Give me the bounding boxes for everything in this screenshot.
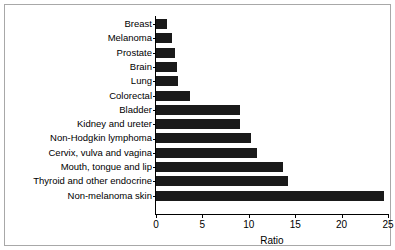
category-label: Brain	[130, 60, 152, 74]
x-axis-tick	[156, 214, 157, 218]
category-label: Kidney and ureter	[77, 117, 152, 131]
category-label: Non-melanoma skin	[68, 189, 152, 203]
bar	[156, 48, 175, 58]
x-axis-tick-label: 5	[200, 219, 206, 231]
x-axis-tick-label: 0	[153, 219, 159, 231]
figure-frame: BreastMelanomaProstateBrainLungColorecta…	[4, 4, 391, 246]
x-axis-tick-label: 25	[382, 219, 393, 231]
x-axis-title: Ratio	[156, 235, 388, 246]
bar-row: Thyroid and other endocrine	[156, 174, 388, 188]
bar-row: Kidney and ureter	[156, 117, 388, 131]
bar	[156, 76, 178, 86]
bar-row: Non-Hodgkin lymphoma	[156, 131, 388, 145]
category-label: Melanoma	[108, 31, 152, 45]
bar	[156, 119, 240, 129]
x-axis-tick	[388, 214, 389, 218]
bar-row: Colorectal	[156, 89, 388, 103]
x-axis-tick-label: 10	[243, 219, 254, 231]
x-axis-tick	[202, 214, 203, 218]
category-label: Lung	[131, 74, 152, 88]
x-axis-tick-label: 20	[336, 219, 347, 231]
bar	[156, 62, 177, 72]
bar	[156, 191, 384, 201]
bar-row: Non-melanoma skin	[156, 189, 388, 203]
x-axis-tick	[342, 214, 343, 218]
category-label: Prostate	[117, 46, 152, 60]
bar	[156, 148, 257, 158]
x-axis-tick	[249, 214, 250, 218]
chart-figure: BreastMelanomaProstateBrainLungColorecta…	[0, 0, 395, 250]
bar-row: Lung	[156, 74, 388, 88]
category-label: Bladder	[119, 103, 152, 117]
bar-row: Mouth, tongue and lip	[156, 160, 388, 174]
bar-row: Cervix, vulva and vagina	[156, 146, 388, 160]
category-label: Breast	[125, 17, 152, 31]
bar-row: Prostate	[156, 46, 388, 60]
plot-area: BreastMelanomaProstateBrainLungColorecta…	[156, 17, 388, 213]
bar-row: Melanoma	[156, 31, 388, 45]
category-label: Non-Hodgkin lymphoma	[50, 131, 152, 145]
bar	[156, 105, 240, 115]
bar	[156, 133, 251, 143]
bar	[156, 162, 283, 172]
x-axis-tick-label: 15	[290, 219, 301, 231]
category-label: Cervix, vulva and vagina	[49, 146, 153, 160]
bar	[156, 91, 190, 101]
x-axis-tick	[295, 214, 296, 218]
bar-row: Brain	[156, 60, 388, 74]
bar-row: Breast	[156, 17, 388, 31]
bar	[156, 19, 167, 29]
bar	[156, 176, 288, 186]
bar-row: Bladder	[156, 103, 388, 117]
category-label: Thyroid and other endocrine	[33, 174, 152, 188]
category-label: Colorectal	[109, 89, 152, 103]
bar	[156, 33, 172, 43]
category-label: Mouth, tongue and lip	[61, 160, 152, 174]
x-axis-spine	[155, 214, 389, 215]
